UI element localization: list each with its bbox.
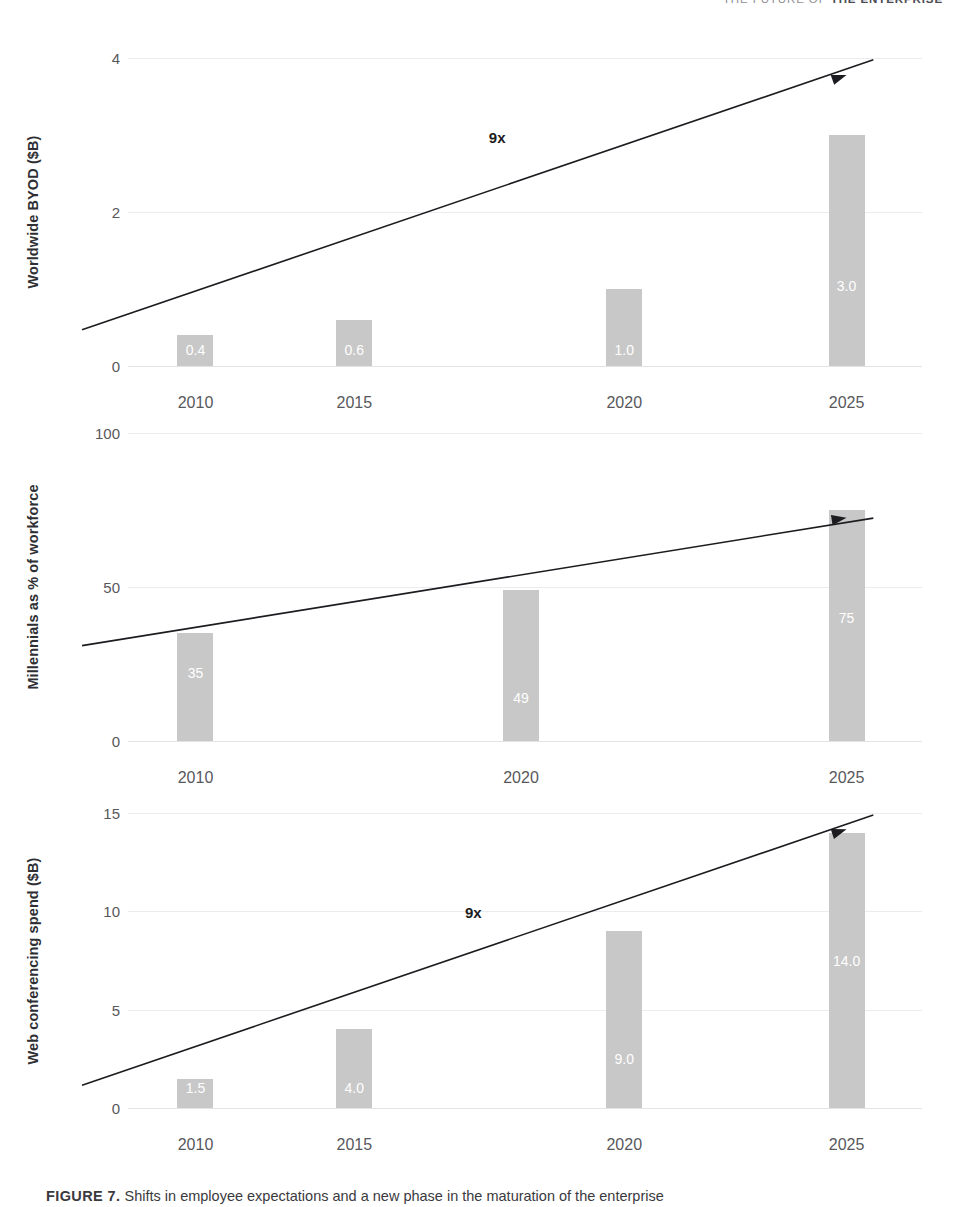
bar-group: 0.40.61.03.0 bbox=[128, 58, 922, 366]
bar-value-label: 0.6 bbox=[345, 342, 364, 358]
y-axis-title: Worldwide BYOD ($B) bbox=[16, 58, 50, 366]
bar: 14.0 bbox=[829, 833, 865, 1108]
y-axis-tick-label: 0 bbox=[62, 734, 120, 749]
bar: 49 bbox=[503, 590, 539, 741]
bar-value-label: 14.0 bbox=[833, 953, 860, 969]
y-axis-title: Web conferencing spend ($B) bbox=[16, 813, 50, 1108]
running-header: THE FUTURE OF THE ENTERPRISE bbox=[723, 0, 943, 5]
y-axis-title: Millennials as % of workforce bbox=[16, 433, 50, 741]
gridline bbox=[128, 366, 922, 367]
bar-group: 354975 bbox=[128, 433, 922, 741]
y-axis-title-text: Web conferencing spend ($B) bbox=[25, 857, 41, 1064]
bar-value-label: 49 bbox=[513, 690, 529, 706]
bar-value-label: 3.0 bbox=[837, 278, 856, 294]
x-axis-tick-label: 2015 bbox=[336, 1136, 372, 1154]
y-axis-tick-label: 0 bbox=[62, 359, 120, 374]
x-axis-tick-label: 2020 bbox=[503, 769, 539, 787]
x-axis-tick-label: 2025 bbox=[829, 1136, 865, 1154]
x-axis-tick-label: 2025 bbox=[829, 394, 865, 412]
bar: 1.5 bbox=[177, 1079, 213, 1109]
y-axis-tick-label: 100 bbox=[62, 426, 120, 441]
bar: 35 bbox=[177, 633, 213, 741]
running-header-prefix: THE FUTURE OF bbox=[723, 0, 831, 5]
figure-caption: FIGURE 7. Shifts in employee expectation… bbox=[46, 1185, 925, 1207]
trend-multiplier-label: 9x bbox=[489, 128, 506, 145]
bar: 75 bbox=[829, 510, 865, 741]
bar: 1.0 bbox=[606, 289, 642, 366]
y-axis-tick-label: 0 bbox=[62, 1101, 120, 1116]
bar-group: 1.54.09.014.0 bbox=[128, 813, 922, 1108]
y-axis-tick-label: 5 bbox=[62, 1002, 120, 1017]
bar-value-label: 1.0 bbox=[615, 342, 634, 358]
x-axis-tick-label: 2020 bbox=[606, 394, 642, 412]
x-axis-tick-label: 2010 bbox=[178, 394, 214, 412]
chart-millennials-workforce: Millennials as % of workforce05010035497… bbox=[0, 415, 965, 790]
bar: 9.0 bbox=[606, 931, 642, 1108]
x-axis-tick-label: 2020 bbox=[606, 1136, 642, 1154]
y-axis-title-text: Millennials as % of workforce bbox=[25, 484, 41, 689]
y-axis-tick-label: 50 bbox=[62, 580, 120, 595]
x-axis-tick-label: 2010 bbox=[178, 1136, 214, 1154]
y-axis-tick-label: 4 bbox=[62, 51, 120, 66]
bar: 4.0 bbox=[336, 1029, 372, 1108]
bar-value-label: 0.4 bbox=[186, 342, 205, 358]
bar: 0.4 bbox=[177, 335, 213, 366]
trend-multiplier-label: 9x bbox=[465, 903, 482, 920]
plot-area: 0510151.54.09.014.02010201520202025 bbox=[128, 813, 922, 1108]
bar-value-label: 75 bbox=[839, 610, 855, 626]
x-axis-tick-label: 2010 bbox=[178, 769, 214, 787]
x-axis-tick-label: 2025 bbox=[829, 769, 865, 787]
chart-web-conferencing-spend: Web conferencing spend ($B)0510151.54.09… bbox=[0, 795, 965, 1160]
bar-value-label: 9.0 bbox=[615, 1051, 634, 1067]
bar-value-label: 1.5 bbox=[186, 1080, 205, 1096]
bar: 0.6 bbox=[336, 320, 372, 366]
figure-label: FIGURE 7. bbox=[46, 1188, 121, 1204]
y-axis-tick-label: 15 bbox=[62, 806, 120, 821]
plot-area: 050100354975201020202025 bbox=[128, 433, 922, 741]
bar-value-label: 35 bbox=[188, 665, 204, 681]
figure-caption-text: Shifts in employee expectations and a ne… bbox=[121, 1188, 664, 1204]
x-axis-tick-label: 2015 bbox=[336, 394, 372, 412]
plot-area: 0240.40.61.03.02010201520202025 bbox=[128, 58, 922, 366]
bar-value-label: 4.0 bbox=[345, 1080, 364, 1096]
chart-worldwide-byod: Worldwide BYOD ($B)0240.40.61.03.0201020… bbox=[0, 40, 965, 400]
running-header-strong: THE ENTERPRISE bbox=[831, 0, 943, 5]
bar: 3.0 bbox=[829, 135, 865, 366]
gridline bbox=[128, 1108, 922, 1109]
y-axis-tick-label: 10 bbox=[62, 904, 120, 919]
y-axis-tick-label: 2 bbox=[62, 205, 120, 220]
gridline bbox=[128, 741, 922, 742]
y-axis-title-text: Worldwide BYOD ($B) bbox=[25, 135, 41, 288]
